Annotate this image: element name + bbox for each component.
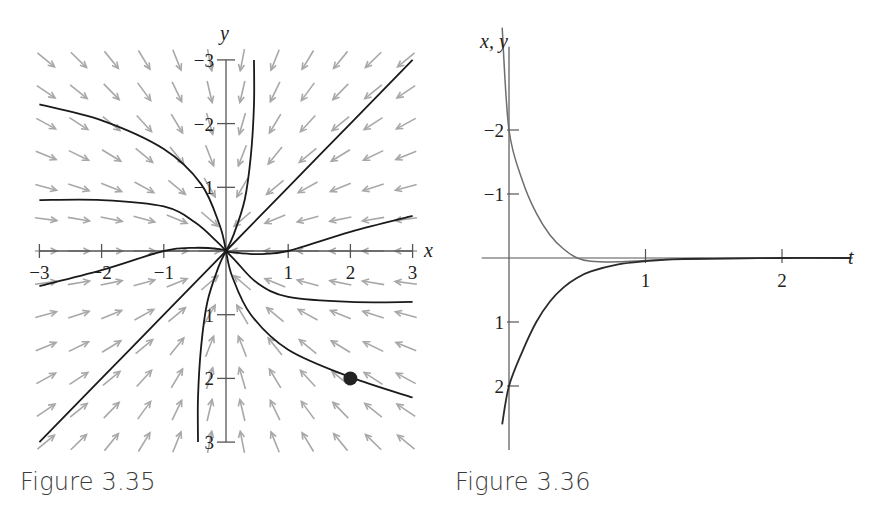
field-arrow [101,310,121,319]
x-tick-label: −3 [29,262,49,283]
field-arrow [300,370,315,386]
field-arrow [206,336,215,357]
field-arrow [299,340,316,354]
field-arrow [170,338,184,355]
field-arrow [300,115,315,131]
field-arrow [362,279,384,285]
field-arrow [330,217,352,223]
field-arrow [207,81,214,102]
field-arrow [397,404,415,416]
field-arrow [301,83,314,101]
field-arrow [168,308,185,322]
field-arrow [37,404,55,416]
field-arrow [138,433,149,452]
field-arrow [267,180,284,194]
field-arrow [71,434,87,449]
field-arrow [138,401,151,419]
field-arrow [70,85,87,99]
field-arrow [297,216,318,223]
field-arrow [331,341,350,352]
xy-tick-label: 2 [495,376,505,397]
field-arrow [333,402,348,418]
field-arrow [395,311,416,318]
field-arrow [134,279,155,286]
field-arrow [365,434,381,449]
field-arrow [269,114,280,133]
field-arrow [365,85,382,99]
field-arrow [395,184,416,191]
field-arrow [137,115,152,131]
y-axis-label: y [218,22,229,45]
field-arrow [267,308,284,322]
field-arrow [363,184,384,192]
x-tick-label: 3 [408,262,418,283]
field-arrow [71,52,87,67]
field-arrow [101,217,123,223]
field-arrow [36,342,56,351]
field-arrow [363,342,383,352]
field-arrow [69,372,87,384]
field-arrow [68,217,90,223]
field-arrow [134,216,155,223]
field-arrow [365,403,382,417]
field-arrow [297,279,318,286]
y-tick-label: −3 [194,50,214,71]
field-arrow [238,145,247,166]
field-arrow [238,113,245,134]
figure-3-35: −3−2−1123321−1−2−3 x y Figure 3.35 [0,0,450,506]
field-arrow [238,400,245,421]
field-arrow [35,184,56,191]
field-arrow [69,151,89,161]
y-tick-label: −2 [194,114,214,135]
field-arrow [396,118,415,128]
marked-point [343,371,357,385]
field-arrow [137,370,152,386]
field-arrow [35,311,56,318]
field-arrow [238,336,247,357]
field-arrow [172,400,182,420]
field-arrow [364,118,382,130]
time-axes [482,47,853,450]
field-arrow [238,368,245,389]
field-arrow [397,86,415,98]
field-arrow [36,118,55,128]
x-tick-label: 2 [346,262,356,283]
figure-caption: Figure 3.36 [455,468,591,496]
field-arrow [363,151,383,161]
field-arrow [36,151,56,160]
field-arrow [69,118,87,130]
solution-curve [39,200,226,251]
x-axis-label: x [423,239,433,261]
field-arrow [68,310,89,318]
field-arrow [68,184,89,192]
field-arrow [104,402,119,418]
field-arrow [396,373,415,383]
t-tick-label: 1 [641,270,651,291]
x-tick-label: −1 [154,262,174,283]
y-tick-label: 3 [205,432,215,453]
y-of-t-curve [502,258,850,424]
x-tick-label: 1 [283,262,293,283]
field-arrow [172,82,182,102]
field-arrow [396,342,416,351]
xy-tick-label: 1 [495,312,505,333]
field-arrow [37,86,55,98]
field-arrow [265,278,285,287]
field-arrow [365,52,381,67]
field-arrow [207,400,214,421]
field-arrow [330,183,350,192]
xy-tick-label: −1 [484,184,504,205]
t-tick-label: 2 [777,270,787,291]
field-arrow [265,215,285,224]
field-arrow [104,434,118,451]
field-arrow [168,180,185,194]
xy-axis-label: x, y [479,30,508,53]
figure-3-36: 1221−1−2 t x, y Figure 3.36 [450,0,893,506]
field-arrow [136,148,153,162]
y-tick-label: −1 [194,177,214,198]
field-arrow [270,400,280,420]
field-arrow [298,309,317,320]
field-arrow [334,51,348,68]
field-arrow [138,51,149,70]
field-arrow [270,82,280,102]
